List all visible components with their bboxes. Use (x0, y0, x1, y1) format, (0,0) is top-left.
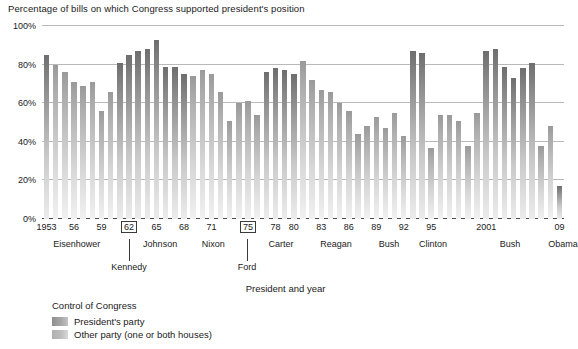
bar (309, 80, 314, 219)
bar (145, 49, 150, 219)
legend: Control of Congress President's party Ot… (52, 300, 212, 340)
x-axis-tick-label: 62 (121, 221, 137, 233)
x-axis-tick-label: 09 (554, 222, 564, 232)
bar (236, 103, 241, 219)
bar (465, 146, 470, 219)
bar (355, 134, 360, 219)
x-axis-tick-label: 56 (69, 222, 79, 232)
bar (71, 82, 76, 219)
plot-area (42, 26, 564, 219)
bar (383, 128, 388, 219)
president-label: Bush (500, 239, 521, 249)
president-leader-line (129, 239, 130, 261)
bar (428, 148, 433, 219)
bar (337, 103, 342, 219)
bar (154, 40, 159, 219)
bar (300, 61, 305, 219)
president-label: Reagan (320, 239, 352, 249)
legend-swatch-presidents-party (52, 317, 68, 326)
x-axis-tick-label: 92 (399, 222, 409, 232)
legend-item-other-party: Other party (one or both houses) (52, 328, 212, 340)
bar (273, 68, 278, 219)
bar (264, 72, 269, 219)
bar (538, 146, 543, 219)
x-axis-tick-label: 78 (271, 222, 281, 232)
bar (190, 76, 195, 219)
bar (44, 55, 49, 219)
bar (410, 51, 415, 219)
bar (483, 51, 488, 219)
bar (419, 53, 424, 219)
bar (319, 90, 324, 219)
x-axis-title: President and year (0, 283, 571, 294)
bar (438, 115, 443, 219)
president-labels-row-secondary: KennedyFord (42, 262, 564, 275)
x-axis-tick-label: 1953 (37, 222, 57, 232)
bar (181, 74, 186, 219)
y-axis-tick-label: 80% (2, 60, 36, 70)
president-label: Bush (379, 239, 400, 249)
bar (474, 113, 479, 219)
bar (200, 70, 205, 219)
bar (456, 121, 461, 219)
y-axis-tick-label: 60% (2, 98, 36, 108)
legend-title: Control of Congress (52, 300, 212, 311)
bar (163, 67, 168, 219)
bar (346, 111, 351, 219)
x-axis-tick-label: 89 (371, 222, 381, 232)
bar (135, 51, 140, 219)
y-axis-tick-label: 40% (2, 137, 36, 147)
bar (548, 126, 553, 219)
bar (62, 72, 67, 219)
chart-title: Percentage of bills on which Congress su… (8, 3, 305, 14)
bar (447, 115, 452, 219)
bar (227, 121, 232, 219)
x-axis-tick-label: 86 (344, 222, 354, 232)
bar (99, 111, 104, 219)
y-axis-tick-label: 20% (2, 175, 36, 185)
x-axis-tick-labels: 19535659626568717578808386899295200109 (42, 222, 564, 235)
president-label: Ford (238, 262, 257, 272)
y-axis-tick-label: 0% (2, 214, 36, 224)
legend-item-presidents-party: President's party (52, 315, 212, 327)
president-label: Kennedy (111, 262, 147, 272)
x-axis-tick-label: 71 (206, 222, 216, 232)
bar (117, 63, 122, 219)
bar (126, 55, 131, 219)
bar (529, 63, 534, 219)
bar (254, 115, 259, 219)
legend-label-other-party: Other party (one or both houses) (74, 329, 212, 340)
bar (291, 74, 296, 219)
x-axis-tick-label: 80 (289, 222, 299, 232)
bar (374, 117, 379, 219)
bar (209, 74, 214, 219)
bar (392, 113, 397, 219)
x-axis-tick-label: 59 (97, 222, 107, 232)
bar (511, 78, 516, 219)
bar (90, 82, 95, 219)
legend-swatch-other-party (52, 330, 68, 339)
bar (328, 92, 333, 219)
president-label: Clinton (419, 239, 447, 249)
president-label: Nixon (202, 239, 225, 249)
bar (108, 92, 113, 219)
president-label: Eisenhower (53, 239, 100, 249)
bar (493, 49, 498, 219)
bar-series (42, 26, 564, 219)
bar (53, 65, 58, 219)
bar (80, 86, 85, 219)
legend-label-presidents-party: President's party (74, 316, 144, 327)
y-axis-tick-label: 100% (2, 21, 36, 31)
bar (172, 67, 177, 219)
bar (401, 136, 406, 219)
bar (218, 92, 223, 219)
x-axis-tick-label: 75 (240, 221, 256, 233)
bar (557, 186, 562, 219)
x-axis-tick-label: 2001 (476, 222, 496, 232)
bar (364, 126, 369, 219)
president-leader-line (247, 239, 248, 261)
president-label: Carter (269, 239, 294, 249)
bar (282, 70, 287, 219)
x-axis-tick-label: 95 (426, 222, 436, 232)
